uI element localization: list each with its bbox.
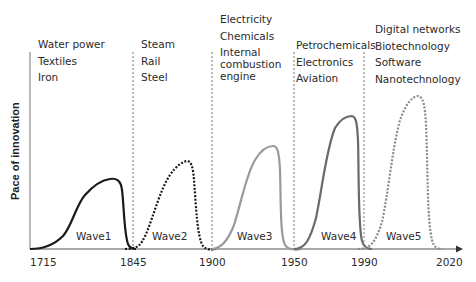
technologies-wave5: Digital networks Biotechnology Software …	[375, 23, 461, 85]
tick-1950: 1950	[281, 256, 308, 268]
technologies-wave2: Steam Rail Steel	[141, 38, 175, 83]
tech-item: Nanotechnology	[375, 73, 461, 85]
tech-item: Steel	[141, 71, 168, 83]
tech-item: Biotechnology	[375, 40, 450, 52]
tech-item: Internal	[220, 46, 260, 58]
tech-item: Chemicals	[220, 30, 274, 42]
tick-1845: 1845	[120, 256, 147, 268]
tech-item: Iron	[38, 71, 58, 83]
tick-1715: 1715	[30, 256, 57, 268]
tech-item: Textiles	[37, 55, 77, 67]
x-tick-labels: 1715 1845 1900 1950 1990 2020	[30, 256, 463, 268]
y-axis-label: Pace of innovation	[9, 102, 21, 200]
tech-item: Electronics	[296, 56, 353, 68]
tech-item: Water power	[38, 38, 106, 50]
tech-item: Aviation	[296, 72, 338, 84]
tech-item: Digital networks	[375, 23, 461, 35]
wave1-label: Wave1	[76, 230, 112, 242]
tech-item: Rail	[141, 55, 160, 67]
tick-1900: 1900	[199, 256, 226, 268]
tech-item: Software	[375, 56, 421, 68]
innovation-waves-chart: Pace of innovation Wave1 Wave2 Wave3 Wav…	[0, 0, 476, 282]
wave4-label: Wave4	[321, 230, 357, 242]
tick-1990: 1990	[351, 256, 378, 268]
tech-item: Petrochemicals	[296, 39, 376, 51]
wave5-label: Wave5	[386, 230, 422, 242]
x-axis-arrow-icon	[456, 246, 463, 253]
tech-item: Electricity	[220, 13, 272, 25]
tech-item: engine	[220, 70, 256, 82]
technologies-wave1: Water power Textiles Iron	[37, 38, 106, 83]
technologies-wave3: Electricity Chemicals Internal combustio…	[220, 13, 281, 82]
tick-2020: 2020	[436, 256, 463, 268]
tech-item: combustion	[220, 58, 281, 70]
wave5-curve	[358, 96, 442, 249]
tech-item: Steam	[141, 38, 175, 50]
wave3-label: Wave3	[237, 230, 273, 242]
wave2-label: Wave2	[152, 230, 188, 242]
